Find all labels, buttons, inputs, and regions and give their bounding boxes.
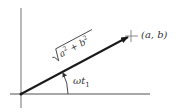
svg-text:a2 + b2: a2 + b2 bbox=[57, 33, 91, 59]
phasor-diagram: (a, b) a2 + b2 ωt1 bbox=[0, 0, 178, 112]
angle-label: ωt1 bbox=[73, 75, 90, 89]
point-crosshair bbox=[125, 30, 138, 42]
origin-dot bbox=[20, 93, 23, 96]
angle-arc bbox=[63, 73, 68, 94]
point-label: (a, b) bbox=[141, 29, 168, 40]
